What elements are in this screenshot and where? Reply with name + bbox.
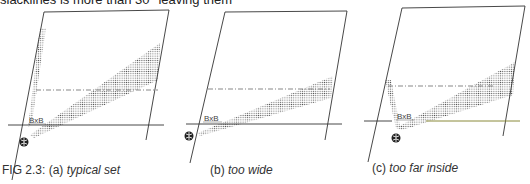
- panel-a-ball-icon: [20, 138, 29, 147]
- panel-b-bxb-label: BxB: [204, 114, 219, 123]
- caption-a-tag: (a): [49, 163, 64, 177]
- caption-b: (b) too wide: [210, 163, 273, 177]
- caption-a-title: typical set: [67, 163, 120, 177]
- panel-a-diagonal-shade: [30, 43, 160, 138]
- caption-c: (c) too far inside: [372, 161, 458, 175]
- panel-b-diagonal-shade: [198, 76, 333, 136]
- panel-a-bxb-label: BxB: [29, 116, 44, 125]
- caption-b-title: too wide: [228, 163, 273, 177]
- figure-number: FIG 2.3:: [2, 163, 45, 177]
- panel-a-diagram: BxB: [8, 10, 169, 180]
- panel-c-bxb-label: BxB: [397, 112, 412, 121]
- caption-a: FIG 2.3: (a) typical set: [2, 163, 120, 177]
- panel-c-diagram: BxB: [364, 6, 525, 162]
- panel-a-vertical-shade: [28, 28, 46, 128]
- caption-b-tag: (b): [210, 163, 225, 177]
- court-diagrams: BxB BxB BxB: [0, 0, 530, 184]
- caption-c-tag: (c): [372, 161, 386, 175]
- panel-b-ball-icon: [185, 132, 194, 141]
- panel-b-diagram: BxB: [185, 11, 348, 163]
- caption-c-title: too far inside: [389, 161, 458, 175]
- panel-c-ball-icon: [392, 134, 401, 143]
